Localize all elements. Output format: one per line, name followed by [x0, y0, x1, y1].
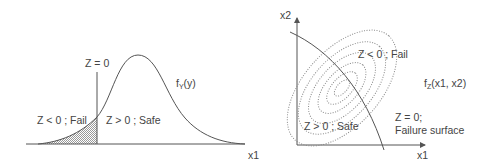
safe-label-left: Z > 0 ; Safe	[106, 115, 161, 126]
density-label-left: fY(y)	[176, 78, 196, 90]
diagram-canvas	[0, 0, 489, 168]
joint-density-contours	[267, 11, 417, 166]
x2-label: x2	[280, 10, 291, 21]
safe-label-right: Z > 0 ; Safe	[304, 121, 359, 132]
fail-label-left: Z < 0 ; Fail	[37, 115, 87, 126]
fail-label-right: Z < 0 ; Fail	[358, 49, 408, 60]
density-curve	[38, 55, 245, 144]
surface-label-1: Z = 0;	[395, 112, 422, 123]
x1-label-right: x1	[417, 150, 428, 161]
density-arg: (x1, x2)	[431, 77, 466, 89]
limit-state-label: Z = 0	[85, 58, 109, 69]
density-label-right: fZ(x1, x2)	[424, 78, 466, 90]
surface-label-2: Failure surface	[395, 125, 464, 136]
density-arg: (y)	[184, 77, 196, 89]
x1-label-left: x1	[248, 150, 259, 161]
